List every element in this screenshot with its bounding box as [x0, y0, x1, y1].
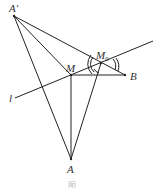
segment-a-prime-m: [14, 16, 71, 75]
point-b: [124, 74, 126, 76]
figure-caption: 图: [68, 181, 76, 188]
label-l: l: [9, 92, 12, 104]
angle-arc-right-outer: [116, 58, 119, 71]
angle-arc-left-inner: [91, 57, 94, 72]
point-a: [70, 158, 72, 160]
label-m: M: [65, 62, 76, 74]
point-m0: [100, 62, 102, 64]
point-m: [70, 74, 72, 76]
segment-m0-a: [71, 63, 101, 159]
label-m0: M0: [95, 49, 109, 63]
geometry-diagram: A' M M0 B l A 图: [0, 0, 159, 188]
point-a-prime: [13, 15, 15, 17]
label-a-prime: A': [8, 2, 19, 14]
angle-arc-left-outer: [88, 55, 92, 74]
label-a: A: [66, 163, 74, 175]
label-b: B: [130, 70, 137, 82]
segment-a-prime-a: [14, 16, 71, 159]
